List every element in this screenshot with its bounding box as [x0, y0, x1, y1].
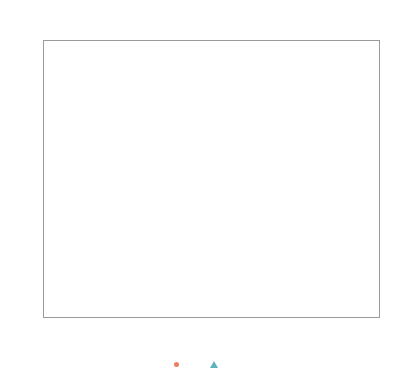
triangle-icon [210, 361, 218, 368]
chart-legend [0, 361, 397, 368]
circle-icon [174, 362, 179, 367]
plot-panel [43, 40, 380, 318]
normal-effects-plot [0, 0, 397, 382]
legend-item-significant [210, 361, 223, 368]
legend-item-not-significant [174, 362, 184, 367]
